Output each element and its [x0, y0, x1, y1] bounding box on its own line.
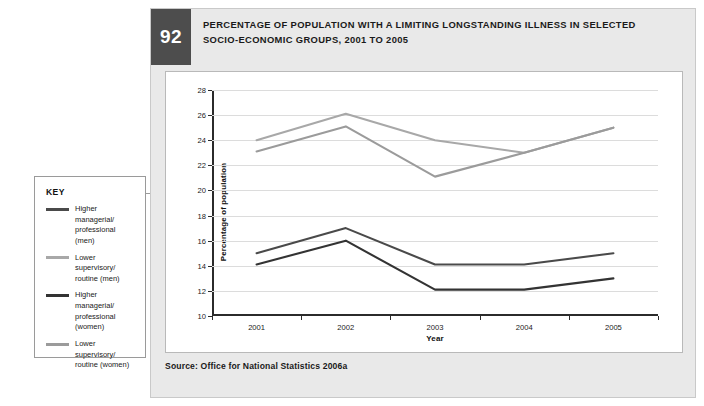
key-title: KEY [46, 187, 136, 197]
key-item: Lower supervisory/ routine (men) [46, 253, 136, 285]
key-item-list: Higher managerial/ professional (men)Low… [46, 204, 136, 371]
chart-plot-region: 1012141618202224262820012002200320042005 [212, 90, 658, 316]
key-item: Higher managerial/ professional (men) [46, 204, 136, 247]
y-tick-label: 20 [198, 186, 206, 195]
figure-number-badge: 92 [151, 9, 191, 65]
x-tick-label: 2005 [605, 323, 622, 332]
y-tick-label: 10 [198, 312, 206, 321]
y-tick-label: 24 [198, 136, 206, 145]
y-tick-label: 26 [198, 111, 206, 120]
y-tick-label: 12 [198, 286, 206, 295]
chart-plot-card: Percentage of population 101214161820222… [165, 71, 683, 353]
y-tick-label: 18 [198, 211, 206, 220]
x-tick-mark [658, 316, 659, 320]
x-tick-label: 2001 [248, 323, 265, 332]
x-axis-title: Year [212, 334, 658, 343]
series-line [257, 114, 614, 153]
chart-area: 1012141618202224262820012002200320042005 [212, 90, 658, 316]
x-tick-mark [569, 316, 570, 320]
series-container [212, 90, 658, 316]
source-note: Source: Office for National Statistics 2… [165, 361, 347, 371]
figure-title-line-2: SOCIO-ECONOMIC GROUPS, 2001 TO 2005 [203, 33, 683, 48]
key-item-label: Lower supervisory/ routine (men) [75, 253, 136, 285]
key-line-swatch-icon [46, 343, 69, 346]
key-line-swatch-icon [46, 256, 69, 259]
series-line [257, 228, 614, 264]
series-line [257, 126, 614, 176]
y-tick-label: 22 [198, 161, 206, 170]
chart-key-box: KEY Higher managerial/ professional (men… [34, 176, 146, 358]
x-tick-mark [390, 316, 391, 320]
key-item-label: Lower supervisory/ routine (women) [75, 339, 136, 371]
figure-header: 92 PERCENTAGE OF POPULATION WITH A LIMIT… [151, 9, 695, 65]
x-tick-label: 2002 [337, 323, 354, 332]
figure-screenshot: KEY Higher managerial/ professional (men… [0, 0, 704, 406]
key-line-swatch-icon [46, 208, 69, 211]
x-tick-label: 2003 [427, 323, 444, 332]
figure-panel: 92 PERCENTAGE OF POPULATION WITH A LIMIT… [150, 8, 696, 398]
key-item: Lower supervisory/ routine (women) [46, 339, 136, 371]
figure-title: PERCENTAGE OF POPULATION WITH A LIMITING… [191, 9, 695, 65]
key-item: Higher managerial/ professional (women) [46, 290, 136, 333]
x-tick-mark [212, 316, 213, 320]
x-tick-mark [301, 316, 302, 320]
figure-title-line-1: PERCENTAGE OF POPULATION WITH A LIMITING… [203, 19, 636, 30]
key-line-swatch-icon [46, 294, 69, 297]
y-tick-label: 28 [198, 86, 206, 95]
key-item-label: Higher managerial/ professional (men) [75, 204, 136, 247]
y-tick-label: 14 [198, 261, 206, 270]
x-tick-label: 2004 [516, 323, 533, 332]
y-tick-label: 16 [198, 236, 206, 245]
x-tick-mark [480, 316, 481, 320]
key-item-label: Higher managerial/ professional (women) [75, 290, 136, 333]
